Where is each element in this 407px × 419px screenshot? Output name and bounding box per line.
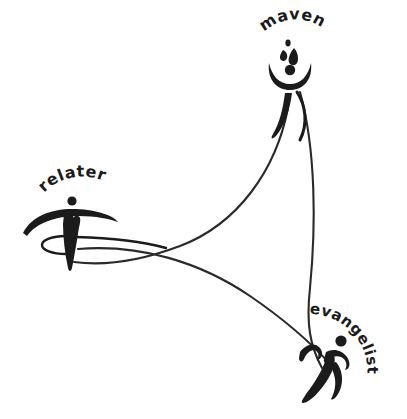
maven-head-dot (285, 65, 295, 75)
relater-head-dot (67, 196, 76, 205)
logo-canvas: maven relater evangelist (0, 0, 407, 419)
evangelist-head-dot (335, 335, 346, 346)
maven-spark-dot (285, 40, 290, 47)
triad-logo-artwork: maven relater evangelist (0, 0, 407, 419)
